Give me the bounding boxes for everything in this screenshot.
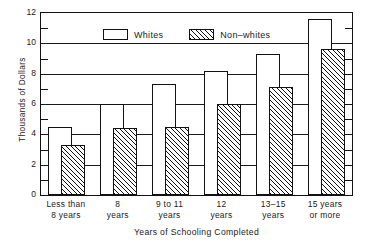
y-axis-tick-label: 10 [20, 38, 36, 47]
y-axis-tick-label: 8 [20, 69, 36, 78]
x-axis-tick-label: Less than8 years [40, 199, 92, 221]
y-axis-tick-label: 12 [20, 8, 36, 17]
x-axis-tick-label-line: or more [299, 210, 351, 221]
y-axis-tick-label: 6 [20, 99, 36, 108]
x-axis-tick-label: 8years [92, 199, 144, 221]
x-axis-tick-label: 9 to 11years [144, 199, 196, 221]
legend-item-whites: Whites [103, 29, 163, 40]
legend-swatch-whites [103, 29, 128, 40]
x-axis-tick-label: 15 yearsor more [299, 199, 351, 221]
x-axis-tick-label-line: Less than [40, 199, 92, 210]
x-axis-tick-label-line: 15 years [299, 199, 351, 210]
bar-chart: Thousands of Dollars 024681012 Whites No… [0, 0, 367, 247]
x-axis-tick-label-line: 13–15 [247, 199, 299, 210]
bar-non-whites [217, 104, 241, 195]
legend-label-whites: Whites [134, 30, 163, 40]
plot-area: Whites Non–whites [40, 12, 353, 196]
x-axis-tick-label-line: years [247, 210, 299, 221]
x-axis-tick-labels: Less than8 years8years9 to 11years12year… [40, 199, 353, 229]
legend-swatch-non-whites [189, 29, 214, 40]
bar-non-whites [269, 87, 293, 195]
x-axis-tick-label-line: 8 years [40, 210, 92, 221]
x-axis-tick-label-line: 12 [196, 199, 248, 210]
bar-non-whites [61, 145, 85, 195]
x-axis-tick-label-line: years [144, 210, 196, 221]
y-axis-tick-labels: 024681012 [16, 0, 36, 247]
legend-label-non-whites: Non–whites [220, 30, 270, 40]
x-axis-tick-label: 13–15years [247, 199, 299, 221]
bar-non-whites [165, 127, 189, 195]
x-axis-tick-label-line: years [196, 210, 248, 221]
x-axis-tick-label-line: 9 to 11 [144, 199, 196, 210]
legend-item-non-whites: Non–whites [189, 29, 270, 40]
bar-non-whites [113, 128, 137, 195]
x-axis-tick-label-line: years [92, 210, 144, 221]
y-axis-tick-label: 4 [20, 129, 36, 138]
bar-non-whites [321, 49, 345, 195]
x-axis-title: Years of Schooling Completed [40, 227, 353, 237]
x-axis-tick-label-line: 8 [92, 199, 144, 210]
x-axis-tick-label: 12years [196, 199, 248, 221]
y-axis-tick-label: 0 [20, 190, 36, 199]
bars-layer [41, 13, 352, 195]
legend: Whites Non–whites [103, 29, 270, 40]
y-axis-tick-label: 2 [20, 160, 36, 169]
